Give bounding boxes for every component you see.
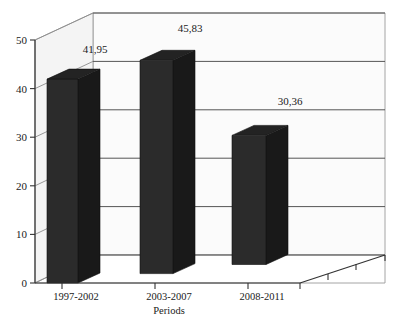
y-tick-label-50: 50 (16, 34, 28, 46)
bar-group-2008-2011[interactable] (232, 125, 288, 264)
bar-side-1997-2002 (78, 69, 100, 283)
bar-group-2003-2007[interactable] (140, 50, 195, 273)
x-category-label-2008-2011: 2008-2011 (239, 291, 284, 302)
bar-front-2003-2007 (140, 60, 173, 273)
bar-chart-3d: 50 40 30 20 10 0 1997-2002 2003-2007 200… (0, 0, 396, 320)
value-label-2008-2011: 30,36 (278, 95, 303, 107)
y-tick-label-20: 20 (16, 180, 28, 192)
x-category-label-1997-2002: 1997-2002 (53, 291, 99, 302)
y-tick-label-30: 30 (16, 131, 28, 143)
y-axis: 50 40 30 20 10 0 (16, 34, 35, 289)
bar-front-1997-2002 (47, 79, 78, 283)
bar-side-2008-2011 (266, 125, 288, 264)
x-category-label-2003-2007: 2003-2007 (146, 291, 192, 302)
y-tick-label-10: 10 (16, 228, 28, 240)
bar-side-2003-2007 (173, 50, 195, 273)
bar-group-1997-2002[interactable] (47, 69, 100, 283)
bar-front-2008-2011 (232, 135, 266, 264)
value-label-1997-2002: 41,95 (83, 43, 108, 55)
y-tick-label-40: 40 (16, 83, 28, 95)
y-tick-label-0: 0 (22, 277, 28, 289)
x-axis-title: Periods (153, 305, 185, 316)
x-axis: 1997-2002 2003-2007 2008-2011 Periods (35, 283, 300, 316)
value-label-2003-2007: 45,83 (178, 22, 203, 34)
chart-container: 50 40 30 20 10 0 1997-2002 2003-2007 200… (0, 0, 396, 320)
